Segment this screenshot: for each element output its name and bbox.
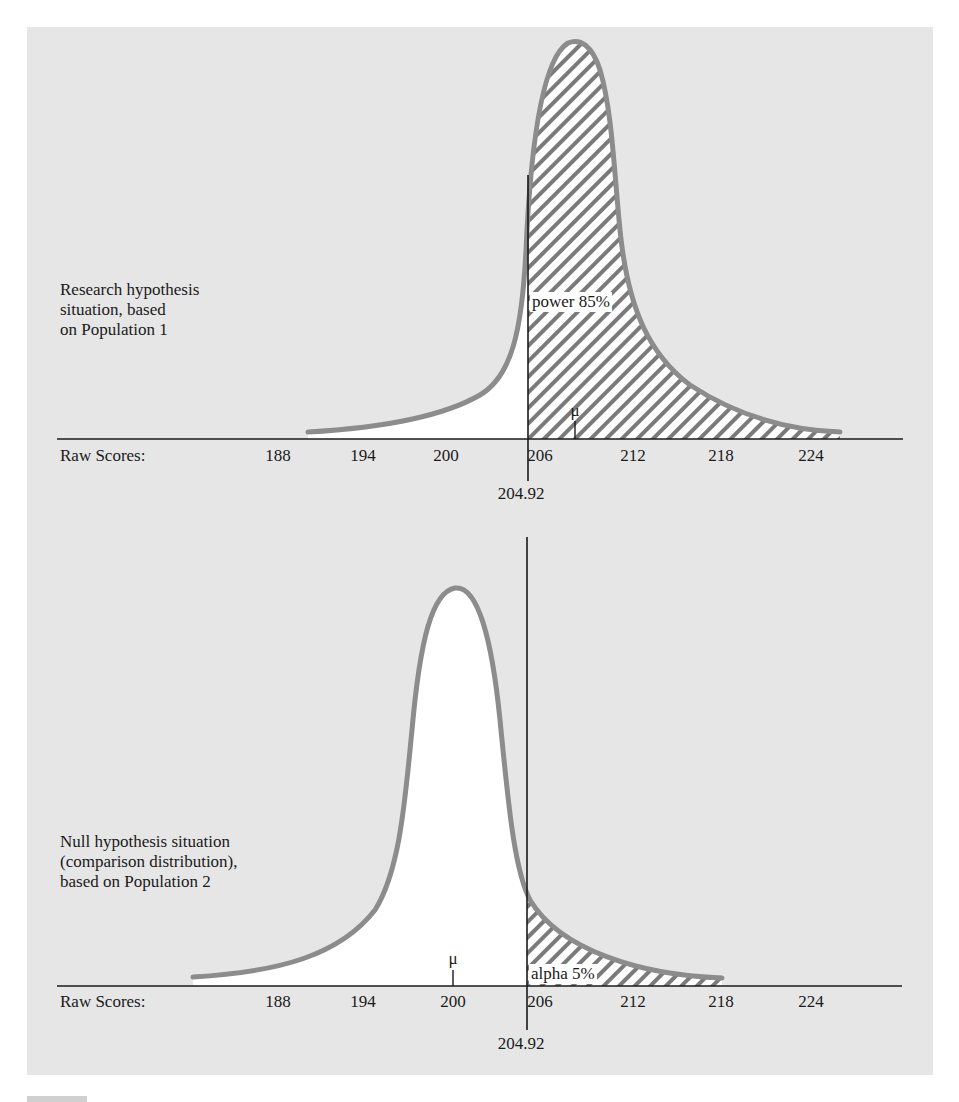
tick-label: 218 <box>708 446 734 466</box>
top-cutoff-label: 204.92 <box>498 484 545 504</box>
tick-label: 212 <box>620 446 646 466</box>
top-axis-label: Raw Scores: <box>60 446 145 466</box>
tick-label: 212 <box>620 992 646 1012</box>
tick-label: 194 <box>350 446 376 466</box>
tick-label: 188 <box>265 992 291 1012</box>
distribution-chart <box>0 0 959 1102</box>
figure-caption-cutoff <box>27 1096 87 1102</box>
tick-label: 206 <box>527 446 553 466</box>
tick-label: 224 <box>798 992 824 1012</box>
research-distribution <box>57 41 903 481</box>
tick-label: 200 <box>440 992 466 1012</box>
bottom-cutoff-label: 204.92 <box>498 1034 545 1054</box>
power-label: power 85% <box>530 292 612 312</box>
tick-label: 200 <box>433 446 459 466</box>
tick-label: 218 <box>708 992 734 1012</box>
bottom-axis-label: Raw Scores: <box>60 992 145 1012</box>
tick-label: 188 <box>265 446 291 466</box>
research-hypothesis-label: Research hypothesis situation, based on … <box>60 280 199 340</box>
null-hypothesis-label: Null hypothesis situation (comparison di… <box>60 832 238 892</box>
bottom-mean-label: μ <box>448 950 457 968</box>
tick-label: 206 <box>527 992 553 1012</box>
null-distribution <box>57 537 902 1030</box>
alpha-label: alpha 5% <box>529 964 597 984</box>
power-shaded-region <box>308 41 840 439</box>
top-mean-label: μ <box>570 402 579 420</box>
tick-label: 224 <box>798 446 824 466</box>
tick-label: 194 <box>350 992 376 1012</box>
